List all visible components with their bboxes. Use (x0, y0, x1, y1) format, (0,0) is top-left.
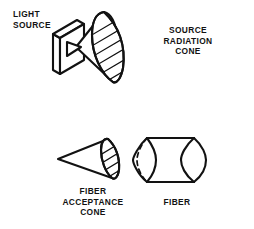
fiber-left-cap-edge (147, 138, 156, 182)
fiber-left-cap-front (133, 138, 147, 182)
fiber-right-cap-inner (181, 138, 194, 182)
label-light-source: LIGHT SOURCE (13, 9, 77, 30)
fiber-cylinder (133, 138, 206, 182)
label-fiber-acceptance-cone: FIBER ACCEPTANCE CONE (46, 186, 140, 218)
fiber-right-cap-outer (194, 138, 206, 182)
label-fiber: FIBER (142, 197, 212, 208)
figure-root: LIGHT SOURCE SOURCE RADIATION CONE FIBER… (0, 0, 254, 229)
fiber-hidden-edge-dashed (137, 138, 147, 182)
label-source-radiation-cone: SOURCE RADIATION CONE (140, 25, 236, 57)
